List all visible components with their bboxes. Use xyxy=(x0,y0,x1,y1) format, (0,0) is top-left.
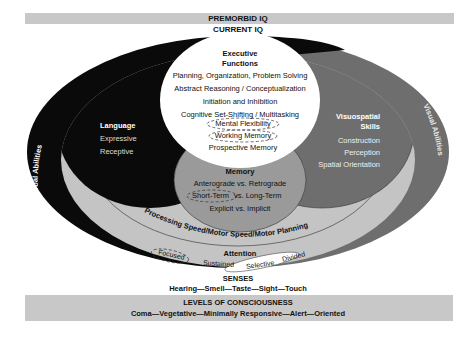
memory-item-long-term: vs. Long-Term xyxy=(234,191,282,201)
executive-item: Planning, Organization, Problem Solving xyxy=(160,71,320,81)
senses-title: SENSES xyxy=(0,274,476,284)
attention-title: Attention xyxy=(200,249,280,259)
consciousness-title: LEVELS OF CONSCIOUSNESS xyxy=(0,298,476,308)
language-item: Receptive xyxy=(100,147,133,157)
executive-title: Executive Functions xyxy=(190,49,290,69)
executive-title-line2: Functions xyxy=(190,59,290,69)
senses-items: Hearing—Smell—Taste—Sight—Touch xyxy=(0,284,476,294)
visuospatial-item: Spatial Orientation xyxy=(300,160,380,170)
memory-item: Explicit vs. Implicit xyxy=(180,204,300,214)
visuospatial-title: Visuospatial Skills xyxy=(300,112,380,132)
memory-item-short-term: Short-Term xyxy=(192,191,229,201)
language-title: Language xyxy=(100,121,135,131)
visuospatial-title-line1: Visuospatial xyxy=(300,112,380,122)
visuospatial-item: Perception xyxy=(300,148,380,158)
executive-item: Abstract Reasoning / Conceptualization xyxy=(160,84,320,94)
language-item: Expressive xyxy=(100,134,137,144)
consciousness-items: Coma—Vegetative—Minimally Responsive—Ale… xyxy=(0,309,476,319)
memory-title: Memory xyxy=(190,167,290,177)
attention-item-sustained: Sustained xyxy=(203,258,235,270)
memory-item: Anterograde vs. Retrograde xyxy=(180,179,300,189)
visuospatial-item: Construction xyxy=(300,136,380,146)
executive-title-line1: Executive xyxy=(190,49,290,59)
executive-item: Initiation and Inhibition xyxy=(160,97,320,107)
visuospatial-title-line2: Skills xyxy=(300,122,380,132)
